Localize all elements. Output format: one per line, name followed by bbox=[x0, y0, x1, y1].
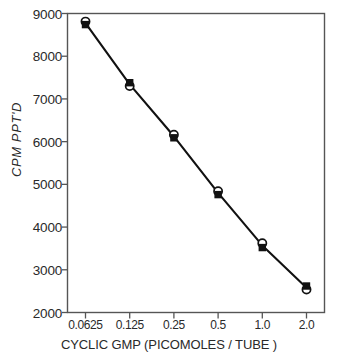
x-axis-tick-labels: 0.06250.1250.250.51.02.0 bbox=[0, 0, 338, 363]
x-tick-label: 2.0 bbox=[277, 318, 337, 332]
x-axis-title: CYCLIC GMP (PICOMOLES / TUBE ) bbox=[0, 337, 338, 352]
chart-figure: CPM PPT'D 200030004000500060007000800090… bbox=[0, 0, 338, 363]
